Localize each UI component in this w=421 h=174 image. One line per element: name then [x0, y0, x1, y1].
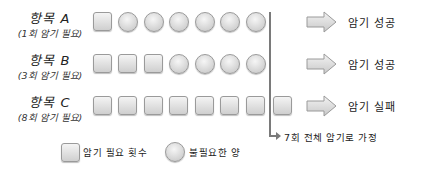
legend-square-icon — [61, 143, 80, 162]
legend-circle-icon — [165, 142, 185, 162]
required-square — [118, 54, 137, 73]
row-a-result: 암기 성공 — [348, 14, 397, 30]
row-c-result: 암기 실패 — [348, 98, 397, 114]
right-arrow-icon — [306, 53, 338, 75]
small-arrowhead-icon — [276, 132, 281, 140]
unnecessary-circle — [195, 12, 215, 32]
unnecessary-circle — [220, 54, 240, 74]
row-c-label: 항목 C — [5, 92, 95, 111]
required-square — [246, 96, 265, 115]
required-square — [169, 96, 188, 115]
required-square — [220, 96, 239, 115]
row-b-label: 항목 B — [5, 50, 95, 69]
unnecessary-circle — [118, 12, 138, 32]
required-square-overflow — [273, 96, 292, 115]
row-c-sublabel: (8회 암기 필요) — [5, 110, 95, 124]
row-b-sublabel: (3회 암기 필요) — [5, 68, 95, 82]
required-square — [93, 54, 112, 73]
required-square — [144, 96, 163, 115]
row-a-sublabel: (1회 암기 필요) — [5, 26, 95, 40]
required-square — [195, 96, 214, 115]
row-a-label: 항목 A — [5, 8, 95, 27]
right-arrow-icon — [306, 11, 338, 33]
required-square — [93, 96, 112, 115]
unnecessary-circle — [169, 12, 189, 32]
cutoff-line — [269, 12, 271, 136]
required-square — [118, 96, 137, 115]
legend-circle-label: 불필요한 양 — [189, 145, 240, 159]
required-square — [93, 12, 112, 31]
unnecessary-circle — [169, 54, 189, 74]
required-square — [144, 54, 163, 73]
unnecessary-circle — [246, 12, 266, 32]
unnecessary-circle — [246, 54, 266, 74]
legend-square-label: 암기 필요 횟수 — [83, 145, 147, 159]
row-b-result: 암기 성공 — [348, 56, 397, 72]
unnecessary-circle — [220, 12, 240, 32]
cutoff-note: 7회 전체 암기로 가정 — [284, 130, 377, 144]
unnecessary-circle — [144, 12, 164, 32]
right-arrow-icon — [306, 95, 338, 117]
unnecessary-circle — [195, 54, 215, 74]
